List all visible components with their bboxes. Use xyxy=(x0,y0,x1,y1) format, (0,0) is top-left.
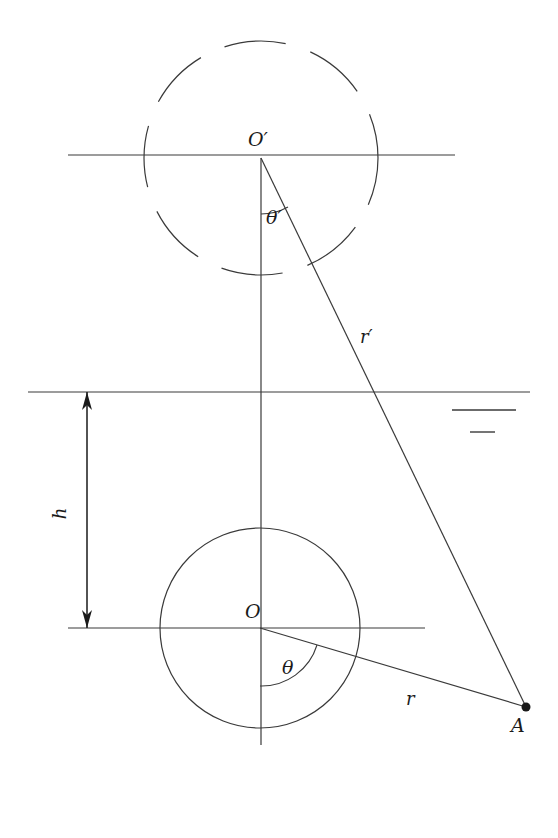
geometry-canvas xyxy=(0,0,558,838)
geometry-diagram: O′ O θ′ θ r′ r h A xyxy=(0,0,558,838)
label-radius-r: r xyxy=(406,688,415,709)
label-center-upper: O′ xyxy=(248,128,268,150)
label-angle-theta: θ xyxy=(282,656,293,678)
label-center-lower: O xyxy=(245,600,261,622)
point-a-marker xyxy=(522,703,531,712)
label-angle-theta-prime: θ′ xyxy=(266,206,282,228)
label-point-a: A xyxy=(511,714,525,736)
label-height-h: h xyxy=(49,508,70,520)
radius-line-r xyxy=(260,628,526,707)
label-radius-r-prime: r′ xyxy=(360,326,373,347)
